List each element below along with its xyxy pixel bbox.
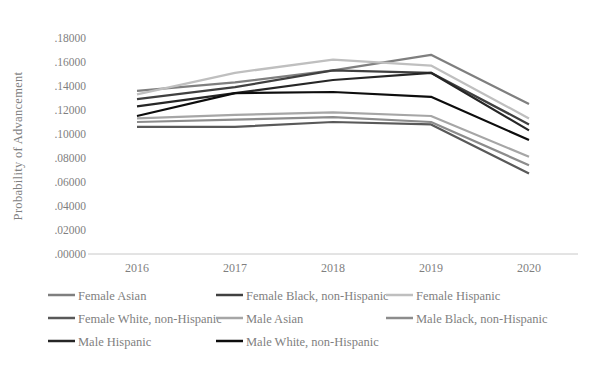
series-line-female-hispanic (137, 60, 529, 119)
y-tick-label: .16000 (54, 56, 86, 68)
legend-item: Female Black, non-Hispanic (216, 289, 389, 303)
legend-label: Male Black, non-Hispanic (416, 312, 548, 326)
legend-item: Female White, non-Hispanic (48, 312, 222, 326)
advancement-probability-chart: Probability of Advancement .00000.02000.… (0, 0, 592, 368)
y-tick-label: .08000 (54, 152, 86, 164)
x-tick-label: 2018 (321, 261, 345, 275)
legend-item: Male White, non-Hispanic (216, 335, 379, 349)
y-tick-label: .12000 (54, 104, 86, 116)
y-tick-label: .02000 (54, 224, 86, 236)
legend-item: Male Hispanic (48, 335, 152, 349)
legend: Female AsianFemale Black, non-HispanicFe… (48, 289, 548, 349)
y-tick-label: .14000 (54, 80, 86, 92)
y-axis: .00000.02000.04000.06000.08000.10000.120… (54, 32, 86, 260)
legend-label: Female Black, non-Hispanic (246, 289, 389, 303)
y-tick-label: .04000 (54, 200, 86, 212)
legend-item: Male Asian (216, 312, 304, 326)
legend-label: Male Hispanic (78, 335, 152, 349)
x-tick-label: 2019 (419, 261, 443, 275)
y-tick-label: .00000 (54, 248, 86, 260)
legend-label: Female Hispanic (416, 289, 501, 303)
legend-label: Female Asian (78, 289, 147, 303)
y-tick-label: .06000 (54, 176, 86, 188)
series-line-male-asian (137, 112, 529, 156)
chart-canvas: Probability of Advancement .00000.02000.… (0, 0, 592, 368)
x-tick-label: 2020 (517, 261, 541, 275)
legend-item: Female Asian (48, 289, 147, 303)
plot-area (137, 55, 529, 174)
series-line-female-white-non-hispanic (137, 122, 529, 174)
legend-label: Male White, non-Hispanic (246, 335, 379, 349)
series-line-male-black-non-hispanic (137, 117, 529, 165)
legend-label: Male Asian (246, 312, 304, 326)
x-tick-label: 2017 (223, 261, 247, 275)
legend-item: Female Hispanic (386, 289, 501, 303)
y-tick-label: .18000 (54, 32, 86, 44)
legend-item: Male Black, non-Hispanic (386, 312, 548, 326)
x-tick-label: 2016 (125, 261, 149, 275)
y-tick-label: .10000 (54, 128, 86, 140)
x-axis: 20162017201820192020 (125, 261, 541, 275)
legend-label: Female White, non-Hispanic (78, 312, 222, 326)
y-axis-title: Probability of Advancement (11, 71, 25, 220)
